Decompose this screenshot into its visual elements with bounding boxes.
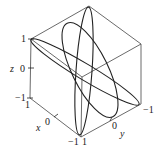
y-axis-label: y <box>119 128 125 139</box>
box-top-face <box>31 6 141 77</box>
ticks <box>27 39 112 121</box>
box-left-edge <box>30 39 31 98</box>
box-front-edge <box>81 77 82 137</box>
y-tick-minus1: −1 <box>143 104 154 115</box>
box-bottom-right-edge <box>81 104 141 137</box>
z-tick-0: 0 <box>20 63 25 74</box>
curve-lobe-medium <box>51 15 129 124</box>
z-tick-1: 1 <box>21 33 26 44</box>
3d-plot: 1 z 0 −1 1 0 x −1 1 0 y −1 <box>0 0 160 154</box>
x-tick-1: 1 <box>25 99 30 110</box>
x-tick-minus1: −1 <box>68 136 79 147</box>
y-tick-0: 0 <box>112 120 117 131</box>
y-tick-1: 1 <box>82 136 87 147</box>
z-axis-label: z <box>9 63 14 74</box>
x-axis-label: x <box>35 122 41 133</box>
x-tick-0: 0 <box>45 116 50 127</box>
curve-lobe-wide <box>27 33 143 112</box>
